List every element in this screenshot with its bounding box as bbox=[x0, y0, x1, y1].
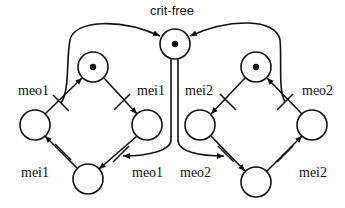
place-right-top bbox=[241, 52, 271, 82]
label-meo1-bottom: meo1 bbox=[132, 166, 163, 180]
label-mei2-bottom: mei2 bbox=[299, 166, 327, 180]
place-left-top bbox=[78, 52, 108, 82]
place-right-bottom bbox=[241, 167, 271, 197]
arc-right-right-to-top bbox=[267, 78, 302, 114]
label-meo1-top: meo1 bbox=[18, 84, 49, 98]
place-right-left bbox=[185, 110, 215, 140]
label-mei2-top: mei2 bbox=[185, 84, 213, 98]
place-left-bottom bbox=[73, 164, 103, 194]
label-mei1-top: mei1 bbox=[137, 84, 165, 98]
transition-mei2-bottom bbox=[277, 146, 293, 162]
arc-left-top-to-right bbox=[104, 78, 137, 114]
petri-net-diagram: crit-free meo1 mei1 mei1 meo1 mei2 meo2 … bbox=[0, 0, 345, 208]
arc-left-bottom-to-left bbox=[45, 136, 77, 168]
label-crit-free: crit-free bbox=[150, 4, 194, 17]
diagram-graphics bbox=[0, 0, 345, 208]
token-icon bbox=[172, 41, 178, 47]
place-crit-free bbox=[160, 29, 190, 59]
transition-meo2-bottom bbox=[218, 146, 234, 162]
label-meo2-top: meo2 bbox=[302, 84, 333, 98]
transition-mei1-bottom bbox=[55, 144, 71, 160]
label-meo2-bottom: meo2 bbox=[180, 166, 211, 180]
arc-right-top-to-left bbox=[211, 78, 245, 114]
label-mei1-bottom: mei1 bbox=[21, 166, 49, 180]
transition-mei1-top bbox=[114, 94, 130, 110]
token-icon bbox=[253, 64, 259, 70]
arc-right-left-to-bottom bbox=[211, 136, 245, 171]
token-icon bbox=[90, 64, 96, 70]
